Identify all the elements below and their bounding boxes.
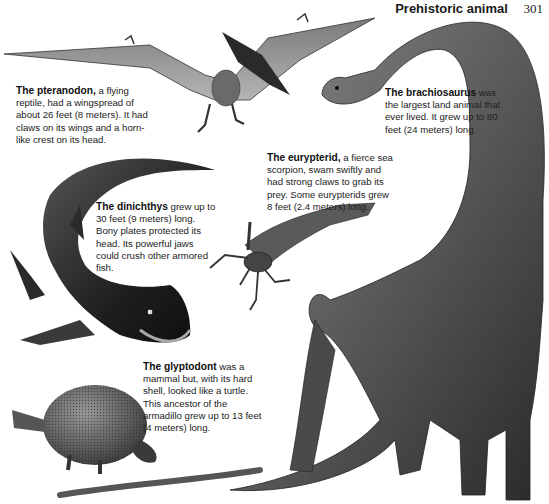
caption-dinichthys: The dinichthys grew up to 30 feet (9 met… (96, 201, 216, 274)
caption-eurypterid: The eurypterid, a fierce sea scorpion, s… (267, 152, 395, 213)
caption-glyptodont-name: The glyptodont (143, 361, 217, 372)
glyptodont-illustration (12, 385, 157, 474)
caption-glyptodont: The glyptodont was a mammal but, with it… (143, 361, 265, 434)
caption-pteranodon: The pteranodon, a flying reptile, had a … (16, 85, 151, 146)
caption-pteranodon-name: The pteranodon, (16, 85, 96, 96)
caption-eurypterid-name: The eurypterid, (267, 152, 341, 163)
section-title: Prehistoric animal (395, 1, 508, 16)
page-number: 301 (524, 1, 544, 16)
caption-dinichthys-name: The dinichthys (96, 201, 168, 212)
illustrations-canvas (0, 0, 549, 504)
caption-brachiosaurus: The brachiosaurus was the largest land a… (385, 87, 505, 136)
caption-brachiosaurus-name: The brachiosaurus (385, 87, 476, 98)
page-header: Prehistoric animal 301 (395, 1, 543, 17)
